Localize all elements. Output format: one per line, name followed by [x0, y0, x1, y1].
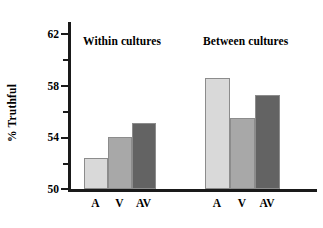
- bar-within-av: [132, 123, 156, 189]
- x-tick-label-within-v: V: [108, 196, 131, 210]
- x-tick-label-between-v: V: [230, 196, 254, 210]
- x-tick-label-between-av: AV: [254, 196, 280, 210]
- group-title-within-cultures: Within cultures: [83, 35, 161, 47]
- bar-between-a: [205, 78, 230, 189]
- bar-chart-figure: % Truthful 62 58 54 50 Within cultures B…: [0, 0, 323, 228]
- bar-between-v: [230, 118, 255, 189]
- bar-within-a: [84, 158, 108, 189]
- plot-area: Within cultures Between cultures: [0, 0, 323, 228]
- group-title-between-cultures: Between cultures: [203, 35, 288, 47]
- x-tick-label-within-a: A: [84, 196, 107, 210]
- bar-between-av: [255, 95, 280, 189]
- bar-within-v: [108, 137, 132, 189]
- x-tick-label-between-a: A: [205, 196, 229, 210]
- x-tick-label-within-av: AV: [131, 196, 156, 210]
